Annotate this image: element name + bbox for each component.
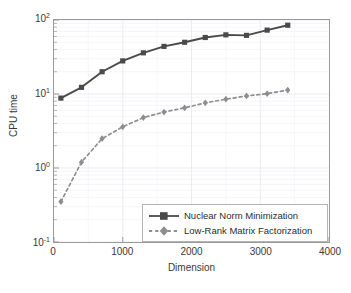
- x-axis-tick-label: 1000: [111, 246, 133, 257]
- chart-legend: Nuclear Norm Minimization Low-Rank Matri…: [142, 204, 328, 242]
- x-axis-tick-label: 3000: [250, 246, 272, 257]
- x-axis-label: Dimension: [53, 262, 330, 273]
- x-axis-tick-label: 0: [50, 246, 56, 257]
- legend-sample-solid-square-icon: [147, 209, 181, 223]
- chart-figure: 10210110010-1 01000200030004000 Dimensio…: [0, 0, 351, 293]
- y-axis-tick-label: 102: [4, 14, 50, 24]
- y-axis-tick-label: 100: [4, 163, 50, 173]
- legend-label: Nuclear Norm Minimization: [184, 210, 298, 221]
- x-axis-tick-label: 2000: [180, 246, 202, 257]
- legend-sample-dashed-diamond-icon: [147, 224, 181, 238]
- legend-label: Low-Rank Matrix Factorization: [184, 225, 312, 236]
- y-axis-label: CPU time: [8, 81, 19, 151]
- y-axis-tick-label: 10-1: [4, 238, 50, 248]
- x-axis-tick-label: 4000: [319, 246, 341, 257]
- legend-item-low-rank-matrix-factorization: Low-Rank Matrix Factorization: [147, 223, 323, 238]
- legend-item-nuclear-norm-minimization: Nuclear Norm Minimization: [147, 208, 323, 223]
